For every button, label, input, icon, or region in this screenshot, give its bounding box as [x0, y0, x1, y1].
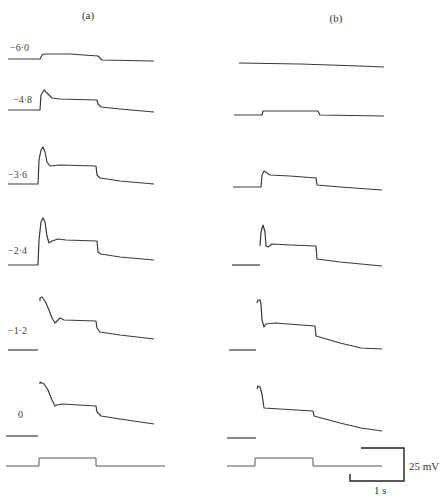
- panel-label-b: (b): [330, 12, 343, 25]
- trace-b-zero-response: [257, 386, 382, 431]
- row-label-minus-6-0: −6·0: [10, 42, 29, 53]
- scale-bar: 25 mV 1 s: [350, 448, 439, 496]
- trace-a-zero-response: [40, 382, 154, 424]
- stimulus-step-b: [227, 458, 382, 466]
- trace-a-minus-6-0: [8, 54, 154, 61]
- row-label-minus-3-6: −3·6: [8, 169, 27, 180]
- panel-b-traces: [227, 63, 384, 466]
- trace-b-minus-4-8: [234, 111, 384, 116]
- trace-b-minus-3-6: [233, 171, 382, 190]
- row-label-minus-4-8: −4·8: [13, 94, 32, 105]
- scale-bar-voltage-label: 25 mV: [409, 460, 439, 472]
- trace-b-minus-6-0: [239, 63, 384, 67]
- trace-b-minus-1-2-response: [257, 300, 382, 349]
- scale-bar-time-label: 1 s: [374, 484, 387, 496]
- trace-a-minus-1-2-response: [40, 297, 154, 339]
- trace-a-minus-2-4: [8, 218, 154, 265]
- figure: (a) (b) −6·0 −4·8 −3·6 −2·4 −1·2 0: [0, 0, 443, 500]
- panel-label-a: (a): [82, 9, 95, 22]
- stimulus-step-a: [6, 458, 165, 466]
- trace-b-minus-2-4-response: [260, 225, 382, 266]
- trace-a-minus-3-6: [8, 147, 154, 184]
- panel-a-traces: [6, 54, 165, 466]
- row-label-zero: 0: [18, 409, 23, 420]
- scale-bar-lines: [350, 448, 404, 481]
- row-label-minus-1-2: −1·2: [8, 325, 27, 336]
- row-label-minus-2-4: −2·4: [8, 245, 27, 256]
